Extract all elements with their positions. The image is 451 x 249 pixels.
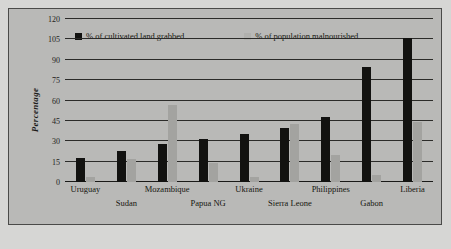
bar-group [65,19,106,182]
y-tick-label-0: 0 [56,178,60,187]
bar-group [188,19,229,182]
bar [209,163,218,182]
bar-group [269,19,310,182]
x-axis-labels: UruguaySudanMozambiquePapua NGUkraineSie… [65,182,433,218]
plot-area: 0153045607590105120 [65,19,433,182]
bar [280,128,289,182]
bar [403,38,412,182]
y-tick-label-60: 60 [52,96,60,105]
bar [76,158,85,182]
y-tick-label-75: 75 [52,76,60,85]
bar [117,151,126,182]
bar-group [392,19,433,182]
bar-group [229,19,270,182]
x-axis-label-ukraine: Ukraine [235,184,262,194]
bar [168,105,177,182]
y-tick-label-45: 45 [52,116,60,125]
x-axis-label-papua-ng: Papua NG [191,198,226,208]
bar [199,139,208,182]
y-tick-label-120: 120 [48,15,60,24]
bar [362,67,371,182]
bar [240,134,249,182]
x-axis-label-philippines: Philippines [312,184,350,194]
x-axis-label-sierra-leone: Sierra Leone [268,198,312,208]
bar [413,122,422,182]
x-axis-label-sudan: Sudan [116,198,137,208]
y-tick-label-15: 15 [52,157,60,166]
bar [321,117,330,182]
x-axis-label-uruguay: Uruguay [71,184,101,194]
x-axis-label-mozambique: Mozambique [145,184,190,194]
y-tick-label-105: 105 [48,35,60,44]
bar-group [351,19,392,182]
x-axis-label-gabon: Gabon [360,198,383,208]
bar [158,144,167,182]
x-axis-label-liberia: Liberia [400,184,425,194]
bar-group [147,19,188,182]
y-axis-title: Percentage [30,70,40,150]
bar [331,155,340,182]
chart-page: Percentage % of cultivated land grabbed … [0,0,451,249]
y-tick-label-90: 90 [52,55,60,64]
bar [127,159,136,182]
bar-group [310,19,351,182]
bar [290,124,299,182]
bar-group [106,19,147,182]
bar [372,175,381,182]
y-tick-label-30: 30 [52,137,60,146]
bar-groups [65,19,433,182]
chart-frame: Percentage % of cultivated land grabbed … [8,8,442,225]
